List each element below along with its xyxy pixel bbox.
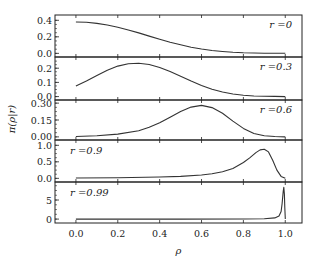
density-curve xyxy=(76,105,285,136)
y-tick-label: 0.4 xyxy=(37,15,52,26)
y-tick-label: 0.5 xyxy=(37,156,52,167)
panel-label: r =0.6 xyxy=(260,104,293,115)
y-tick-label: 0.2 xyxy=(37,31,52,42)
density-curve xyxy=(76,149,285,178)
panel-label: r =0.3 xyxy=(260,61,292,72)
y-tick-label: 0.1 xyxy=(37,77,52,88)
y-tick-label: 0.15 xyxy=(31,115,52,126)
density-curve xyxy=(76,22,285,53)
x-tick-label: 0.4 xyxy=(152,228,167,239)
y-axis-label: π(ρ|r) xyxy=(6,105,18,135)
x-tick-label: 0.8 xyxy=(236,228,251,239)
y-tick-label: 0.30 xyxy=(31,98,52,109)
x-tick-label: 1.0 xyxy=(278,228,293,239)
stacked-density-chart: 0.00.20.4r =00.00.10.2r =0.30.000.150.30… xyxy=(0,0,336,263)
y-tick-label: 1.0 xyxy=(37,140,52,151)
x-tick-label: 0.2 xyxy=(110,228,125,239)
y-tick-label: 5 xyxy=(46,195,52,206)
y-tick-label: 0.0 xyxy=(37,173,52,184)
y-tick-label: 0.0 xyxy=(37,48,52,59)
y-tick-label: 0 xyxy=(46,214,52,225)
y-tick-label: 0.2 xyxy=(37,63,52,74)
panel-label: r =0.99 xyxy=(70,187,109,198)
density-curve xyxy=(76,63,285,96)
panel-label: r =0 xyxy=(269,19,292,30)
x-tick-label: 0.0 xyxy=(68,228,83,239)
panel-frame xyxy=(55,15,302,57)
x-axis-label: ρ xyxy=(175,245,182,256)
panel-label: r =0.9 xyxy=(70,145,103,156)
x-tick-label: 0.6 xyxy=(194,228,209,239)
